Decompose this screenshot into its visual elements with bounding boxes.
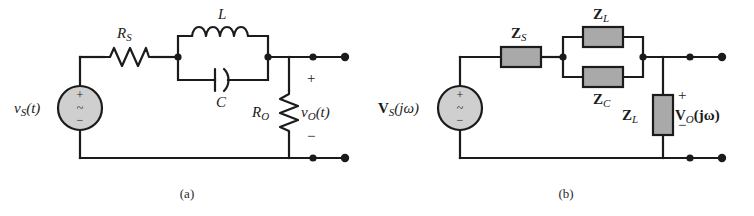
component-inductor-l <box>192 27 254 36</box>
output-plus-sign-b: + <box>678 87 686 103</box>
wire-ind-branch-right-a <box>254 36 268 57</box>
node-output-top-a <box>309 53 316 60</box>
component-source-b: + ~ − <box>438 86 482 130</box>
wire-cap-branch-left-a <box>178 57 215 80</box>
component-resistor-rs <box>104 48 152 66</box>
component-impedance-zc <box>583 67 623 87</box>
component-impedance-zl-parallel <box>583 27 623 47</box>
component-impedance-zs <box>501 47 541 67</box>
node-output-bottom-a <box>309 154 316 161</box>
component-resistor-ro <box>280 90 298 133</box>
source-plus-glyph-b: + <box>457 88 464 102</box>
circuit-figure: RS L C RO <box>0 0 754 216</box>
label-zl-parallel: ZL <box>593 6 609 24</box>
label-c: C <box>216 94 227 110</box>
label-zs: ZS <box>511 25 527 43</box>
terminal-top-a <box>341 53 349 61</box>
label-zl-load: ZL <box>622 107 638 125</box>
wire-zc-branch-right-b <box>623 57 643 77</box>
impedance-box-zl-parallel <box>583 27 623 47</box>
impedance-box-zc <box>583 67 623 87</box>
wire-zl-branch-left-b <box>563 37 583 57</box>
label-source-a: vS(t) <box>14 100 40 118</box>
terminal-bottom-a <box>341 154 349 162</box>
resistor-zigzag-rs <box>104 48 152 66</box>
output-minus-sign-b: − <box>678 117 686 133</box>
caption-b: (b) <box>558 186 573 201</box>
label-ro: RO <box>251 104 269 122</box>
source-plus-glyph-a: + <box>77 88 84 102</box>
output-plus-sign-a: + <box>307 70 315 86</box>
label-source-b: VS(jω) <box>378 100 419 118</box>
label-zc: ZC <box>593 91 611 109</box>
source-minus-glyph-a: − <box>77 113 84 127</box>
label-output-voltage-a: vO(t) <box>301 104 330 122</box>
caption-a: (a) <box>180 186 194 201</box>
impedance-box-zl-load <box>653 95 673 135</box>
node-output-bottom-b <box>686 154 693 161</box>
component-source-a: + ~ − <box>58 86 102 130</box>
label-l: L <box>217 6 226 22</box>
wire-zc-branch-left-b <box>563 57 583 77</box>
capacitor-plate-curved <box>224 69 229 91</box>
panel-a: RS L C RO <box>14 6 349 201</box>
source-minus-glyph-b: − <box>457 113 464 127</box>
component-impedance-zl-load <box>653 95 673 135</box>
inductor-coils <box>192 27 254 36</box>
resistor-zigzag-ro <box>280 90 298 133</box>
node-output-top-b <box>686 53 693 60</box>
wire-cap-branch-right-a <box>228 57 268 80</box>
terminal-top-b <box>718 53 726 61</box>
panel-b: ZS ZL ZC ZL <box>378 6 726 201</box>
terminal-bottom-b <box>718 154 726 162</box>
wire-ind-branch-left-a <box>178 36 192 57</box>
component-capacitor-c <box>215 69 229 91</box>
label-rs: RS <box>116 25 132 43</box>
output-minus-sign-a: − <box>307 128 315 144</box>
wire-zl-branch-right-b <box>623 37 643 57</box>
impedance-box-zs <box>501 47 541 67</box>
